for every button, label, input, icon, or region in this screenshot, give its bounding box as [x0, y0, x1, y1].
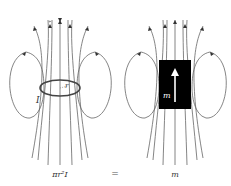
- magnetic-dipole-diagram: r I m πr²I = m: [0, 0, 231, 186]
- current-label: I: [35, 95, 40, 105]
- current-loop-field: [10, 20, 112, 165]
- field-arrows-right: [137, 20, 214, 56]
- right-caption: m: [171, 170, 179, 179]
- field-arrows-left: [22, 20, 99, 56]
- left-caption: πr²I: [51, 170, 68, 179]
- moment-label: m: [163, 91, 171, 100]
- equals-sign: =: [111, 169, 119, 179]
- radius-label: r: [65, 82, 69, 90]
